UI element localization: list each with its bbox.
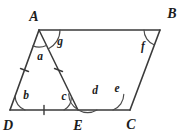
- vertex-label-E: E: [72, 118, 82, 133]
- angle-labels: a g b c d e f: [23, 35, 146, 102]
- angle-label-g: g: [56, 35, 63, 48]
- vertex-label-D: D: [2, 118, 13, 133]
- angle-label-c: c: [61, 90, 66, 102]
- vertex-labels: A B C D E: [2, 6, 177, 133]
- vertex-label-A: A: [28, 9, 38, 24]
- figure-edges: [10, 30, 160, 110]
- angle-label-a: a: [37, 50, 43, 62]
- angle-label-f: f: [141, 40, 146, 53]
- vertex-label-C: C: [126, 117, 136, 132]
- geometry-figure-container: A B C D E a g b c d e f: [0, 0, 187, 137]
- side-BC-line: [130, 30, 160, 110]
- angle-arc-a: [33, 45, 47, 47]
- angle-arc-f: [144, 30, 154, 45]
- vertex-label-B: B: [166, 6, 176, 21]
- angle-label-e: e: [114, 82, 119, 94]
- angle-label-b: b: [23, 89, 29, 101]
- angle-label-d: d: [92, 84, 98, 96]
- parallelogram-diagram: A B C D E a g b c d e f: [0, 0, 187, 137]
- angle-arc-e: [113, 94, 124, 110]
